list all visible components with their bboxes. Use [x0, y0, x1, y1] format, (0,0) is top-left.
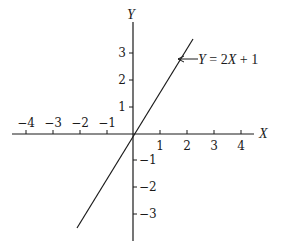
- x-tick-label: −3: [44, 116, 62, 130]
- line-chart: X Y −4 −3 −2 −1 1 2 3 4 3 2 1 −1 −2 −3: [0, 0, 281, 248]
- x-tick-label: 4: [237, 139, 245, 153]
- y-tick-label: −1: [139, 153, 157, 167]
- y-axis-label: Y: [127, 7, 137, 22]
- y-tick-label: 1: [118, 100, 126, 114]
- x-axis-label: X: [258, 126, 268, 141]
- equation-annotation: Y = 2X + 1: [178, 52, 258, 67]
- x-tick-label: 3: [210, 139, 218, 153]
- x-tick-label: −4: [17, 116, 35, 130]
- y-tick-label: −3: [139, 207, 157, 221]
- x-tick-label: −1: [98, 116, 116, 130]
- y-tick-label: −2: [139, 180, 157, 194]
- y-tick-label: 2: [118, 73, 126, 87]
- x-tick-label: −2: [71, 116, 89, 130]
- equation-label: Y = 2X + 1: [198, 52, 258, 67]
- x-tick-label: 1: [156, 139, 164, 153]
- y-tick-label: 3: [118, 46, 126, 60]
- x-tick-label: 2: [183, 139, 191, 153]
